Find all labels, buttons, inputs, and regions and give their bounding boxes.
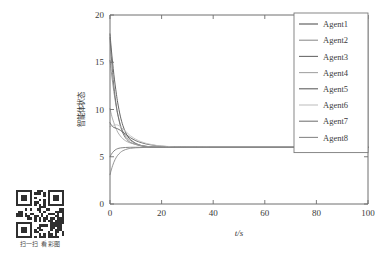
legend-label-agent6[interactable]: Agent6 xyxy=(323,100,348,110)
legend-label-agent3[interactable]: Agent3 xyxy=(323,52,348,62)
legend-label-agent1[interactable]: Agent1 xyxy=(323,19,348,29)
legend-label-agent2[interactable]: Agent2 xyxy=(323,35,348,45)
legend-label-agent5[interactable]: Agent5 xyxy=(323,84,348,94)
x-axis-title: t/s xyxy=(235,228,244,238)
x-tick-label: 100 xyxy=(361,208,375,218)
x-tick-label: 60 xyxy=(260,208,270,218)
x-tick-label: 0 xyxy=(108,208,113,218)
y-tick-label: 15 xyxy=(95,57,105,67)
x-tick-label: 40 xyxy=(209,208,219,218)
y-tick-label: 20 xyxy=(95,10,105,20)
y-tick-labels-group: 05101520 xyxy=(95,10,105,209)
y-tick-label: 5 xyxy=(100,152,105,162)
y-tick-label: 0 xyxy=(100,199,105,209)
y-tick-label: 10 xyxy=(95,105,105,115)
legend-label-agent7[interactable]: Agent7 xyxy=(323,116,348,126)
legend: Agent1Agent2Agent3Agent4Agent5Agent6Agen… xyxy=(294,13,368,153)
x-tick-label: 80 xyxy=(312,208,322,218)
line-chart: 020406080100 05101520 Agent1Agent2Agent3… xyxy=(0,0,380,253)
x-tick-labels-group: 020406080100 xyxy=(108,208,376,218)
x-tick-label: 20 xyxy=(157,208,167,218)
y-axis-title: 智能体状态 xyxy=(76,91,86,127)
legend-label-agent4[interactable]: Agent4 xyxy=(323,68,349,78)
legend-label-agent8[interactable]: Agent8 xyxy=(323,133,348,143)
chart-figure: 020406080100 05101520 Agent1Agent2Agent3… xyxy=(0,0,380,253)
